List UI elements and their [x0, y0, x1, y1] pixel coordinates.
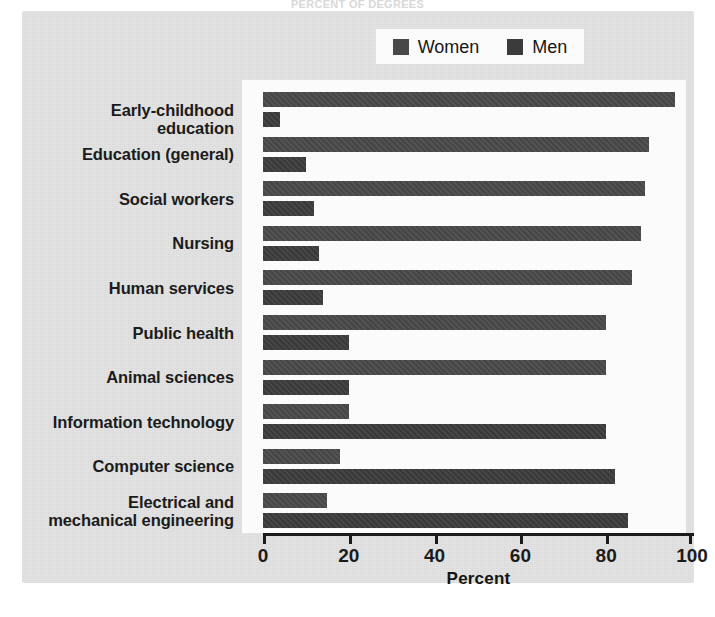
bar-group [263, 449, 692, 484]
legend-item-women[interactable]: Women [393, 38, 480, 56]
bar-women[interactable] [263, 92, 675, 107]
x-axis-tick [263, 533, 266, 544]
bar-women[interactable] [263, 449, 340, 464]
legend-item-men[interactable]: Men [507, 38, 567, 56]
x-axis-tick-label: 100 [676, 546, 708, 565]
category-label: Nursing [34, 234, 234, 252]
category-label: Public health [34, 324, 234, 342]
bar-group [263, 360, 692, 395]
category-label: Electrical andmechanical engineering [34, 493, 234, 529]
bar-women[interactable] [263, 137, 649, 152]
category-label: Information technology [34, 413, 234, 431]
x-axis-tick-label: 80 [596, 546, 617, 565]
bar-women[interactable] [263, 315, 606, 330]
bar-men[interactable] [263, 424, 606, 439]
category-label: Early-childhood education [34, 101, 234, 137]
bar-women[interactable] [263, 493, 327, 508]
chart-legend: Women Men [376, 29, 584, 64]
category-label: Computer science [34, 457, 234, 475]
women-swatch-icon [393, 39, 409, 55]
x-axis-tick [520, 533, 523, 544]
x-axis-tick [689, 533, 692, 544]
bars-container [263, 80, 692, 533]
bar-women[interactable] [263, 360, 606, 375]
category-label: Education (general) [34, 145, 234, 163]
bar-group [263, 181, 692, 216]
bar-men[interactable] [263, 469, 615, 484]
chart-figure: Women Men Early-childhood educationEduca… [22, 11, 694, 583]
x-axis: 020406080100 [263, 533, 694, 534]
x-axis-title: Percent [263, 569, 694, 589]
category-label: Animal sciences [34, 368, 234, 386]
bar-men[interactable] [263, 380, 349, 395]
bar-group [263, 270, 692, 305]
category-label: Social workers [34, 190, 234, 208]
men-swatch-icon [507, 39, 523, 55]
bar-men[interactable] [263, 246, 319, 261]
bar-men[interactable] [263, 290, 323, 305]
cropped-title: PERCENT OF DEGREES [0, 0, 715, 9]
legend-label-women: Women [418, 38, 480, 56]
bar-men[interactable] [263, 201, 314, 216]
bar-women[interactable] [263, 404, 349, 419]
bar-group [263, 315, 692, 350]
x-axis-tick-label: 60 [510, 546, 531, 565]
bar-men[interactable] [263, 157, 306, 172]
plot-area [242, 80, 686, 533]
x-axis-line [263, 533, 694, 536]
x-axis-tick [606, 533, 609, 544]
x-axis-tick-label: 0 [258, 546, 269, 565]
bar-men[interactable] [263, 112, 280, 127]
category-label: Human services [34, 279, 234, 297]
bar-group [263, 493, 692, 528]
bar-women[interactable] [263, 181, 645, 196]
bar-group [263, 404, 692, 439]
bar-group [263, 226, 692, 261]
bar-group [263, 92, 692, 127]
x-axis-tick-label: 20 [338, 546, 359, 565]
category-axis-labels: Early-childhood educationEducation (gene… [34, 80, 234, 533]
bar-men[interactable] [263, 513, 628, 528]
bar-women[interactable] [263, 270, 632, 285]
x-axis-tick [435, 533, 438, 544]
bar-men[interactable] [263, 335, 349, 350]
legend-label-men: Men [532, 38, 567, 56]
bar-women[interactable] [263, 226, 641, 241]
x-axis-tick [349, 533, 352, 544]
bar-group [263, 137, 692, 172]
x-axis-tick-label: 40 [424, 546, 445, 565]
